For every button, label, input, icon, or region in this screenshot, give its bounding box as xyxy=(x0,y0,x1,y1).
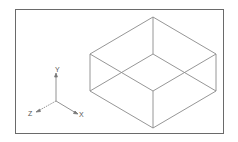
box-wireframe xyxy=(90,17,216,128)
x-axis-label: X xyxy=(79,111,84,118)
drawing-canvas: Y X Z xyxy=(0,0,238,142)
box-edge xyxy=(153,91,216,128)
z-arrow-icon xyxy=(36,109,41,112)
box-edge xyxy=(90,91,153,128)
axis-triad xyxy=(36,73,78,114)
x-axis xyxy=(56,101,76,113)
z-axis xyxy=(38,101,56,111)
y-axis-label: Y xyxy=(55,66,60,73)
z-axis-label: Z xyxy=(28,110,33,117)
y-arrow-icon xyxy=(55,73,58,77)
